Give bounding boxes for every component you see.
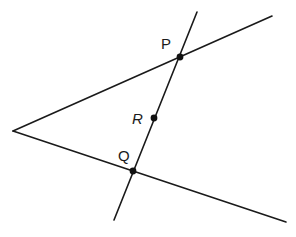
label-p: P <box>161 35 171 52</box>
lower-ray <box>13 131 286 222</box>
label-r: R <box>132 110 143 127</box>
geometry-diagram: P R Q <box>0 0 296 237</box>
point-q <box>130 168 137 175</box>
point-r <box>151 115 158 122</box>
point-p <box>177 54 184 61</box>
label-q: Q <box>118 147 130 164</box>
